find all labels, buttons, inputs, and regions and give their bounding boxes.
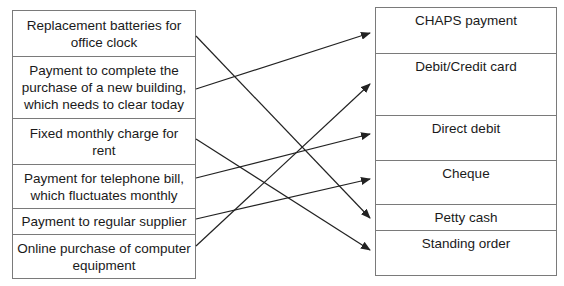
right-item-direct-debit: Direct debit	[376, 115, 556, 160]
right-item-label: Cheque	[442, 166, 489, 181]
left-item-online: Online purchase of computer equipment	[13, 234, 195, 279]
right-item-standing-order: Standing order	[376, 230, 556, 276]
left-item-label: Payment for telephone bill, which fluctu…	[17, 170, 191, 204]
arrow-rent-to-standing-order	[196, 139, 370, 250]
left-item-rent: Fixed monthly charge for rent	[13, 118, 195, 164]
arrow-supplier-to-cheque	[196, 179, 370, 219]
right-item-debit-credit-card: Debit/Credit card	[376, 53, 556, 115]
left-item-label: Online purchase of computer equipment	[17, 240, 191, 274]
arrow-online-to-debit-credit-card	[196, 84, 370, 246]
left-item-label: Payment to complete the purchase of a ne…	[17, 62, 191, 113]
right-item-chaps: CHAPS payment	[376, 8, 556, 53]
right-item-cheque: Cheque	[376, 160, 556, 204]
arrow-batteries-to-petty-cash	[196, 36, 370, 218]
left-item-batteries: Replacement batteries for office clock	[13, 11, 195, 56]
right-item-label: Debit/Credit card	[415, 59, 516, 74]
right-item-label: CHAPS payment	[415, 13, 517, 28]
right-item-label: Standing order	[422, 236, 511, 251]
left-item-label: Payment to regular supplier	[21, 213, 186, 230]
right-item-label: Direct debit	[432, 121, 500, 136]
arrow-building-to-chaps	[196, 33, 370, 89]
right-item-petty-cash: Petty cash	[376, 204, 556, 230]
left-item-telephone: Payment for telephone bill, which fluctu…	[13, 164, 195, 208]
payment-situations-column: Replacement batteries for office clock P…	[12, 10, 196, 279]
left-item-building: Payment to complete the purchase of a ne…	[13, 56, 195, 118]
payment-methods-column: CHAPS payment Debit/Credit card Direct d…	[375, 7, 557, 276]
arrow-telephone-to-direct-debit	[196, 134, 370, 178]
left-item-supplier: Payment to regular supplier	[13, 208, 195, 234]
left-item-label: Replacement batteries for office clock	[17, 17, 191, 51]
left-item-label: Fixed monthly charge for rent	[17, 125, 191, 159]
right-item-label: Petty cash	[434, 210, 497, 225]
